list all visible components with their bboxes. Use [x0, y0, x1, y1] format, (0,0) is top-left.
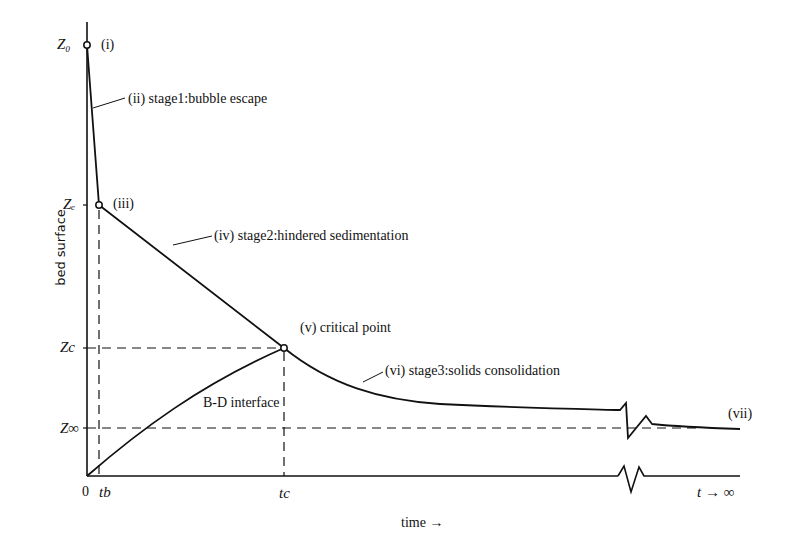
annotation-iii: (iii)	[113, 197, 134, 211]
annotation-v: (v) critical point	[300, 321, 391, 335]
bd-interface-curve	[87, 348, 284, 476]
point-v-critical	[281, 345, 287, 351]
diagram-canvas	[0, 0, 787, 556]
x-tick-tb: tb	[99, 485, 111, 500]
y-tick-zinf: Z∞	[60, 421, 79, 436]
point-i	[84, 42, 90, 48]
y-tick-z0: Z₀	[57, 37, 71, 52]
annotation-bd-interface: B-D interface	[203, 396, 280, 410]
annotation-vi: (vi) stage3:solids consolidation	[385, 364, 560, 378]
y-tick-zc: Zc	[60, 340, 75, 355]
x-tick-tinf: t → ∞	[697, 485, 734, 500]
x-axis-label: time →	[401, 516, 443, 530]
x-tick-origin: 0	[82, 485, 89, 499]
dashed-guides	[87, 210, 700, 476]
point-iii	[96, 202, 102, 208]
y-axis-label: bed surface	[53, 209, 68, 286]
annotation-iv: (iv) stage2:hindered sedimentation	[214, 229, 408, 243]
annotation-ii: (ii) stage1:bubble escape	[128, 92, 267, 106]
annotation-i: (i)	[101, 38, 114, 52]
x-tick-tc: tc	[279, 486, 290, 501]
annotation-vii: (vii)	[728, 407, 752, 421]
